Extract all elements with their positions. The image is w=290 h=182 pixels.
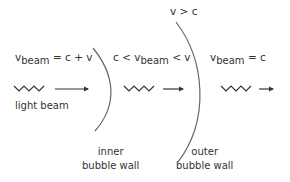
outer-wall-line1: outer: [176, 145, 233, 159]
subscript: beam: [216, 55, 244, 66]
arrow-right-icon: [179, 87, 184, 92]
top-label: v > c: [170, 6, 197, 17]
relation: = c: [245, 51, 266, 63]
region-2-label: c < vbeam < v: [113, 52, 191, 63]
relation: < v: [169, 51, 191, 63]
outer-bubble-wall: [176, 22, 200, 162]
relation: = c + v: [50, 51, 93, 63]
inner-wall-line2: bubble wall: [82, 159, 139, 173]
inner-wall-label: inner bubble wall: [82, 145, 139, 173]
arrow-right-icon: [269, 87, 274, 92]
outer-wall-line2: bubble wall: [176, 159, 233, 173]
wave-icon: [124, 86, 154, 91]
wave-icon: [14, 86, 44, 91]
region-3-label: vbeam = c: [210, 52, 266, 63]
subscript: beam: [140, 55, 168, 66]
diagram-canvas: [0, 0, 290, 182]
arrow-right-icon: [84, 87, 89, 92]
inner-bubble-wall: [93, 48, 111, 131]
wave-icon: [221, 86, 251, 91]
relation-pre: c < v: [113, 51, 140, 63]
inner-wall-line1: inner: [82, 145, 139, 159]
light-beam-label: light beam: [15, 101, 69, 111]
region-1-label: vbeam = c + v: [15, 52, 93, 63]
subscript: beam: [21, 55, 49, 66]
outer-wall-label: outer bubble wall: [176, 145, 233, 173]
